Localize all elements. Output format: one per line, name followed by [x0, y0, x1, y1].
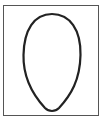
face-outline-icon — [0, 0, 106, 122]
